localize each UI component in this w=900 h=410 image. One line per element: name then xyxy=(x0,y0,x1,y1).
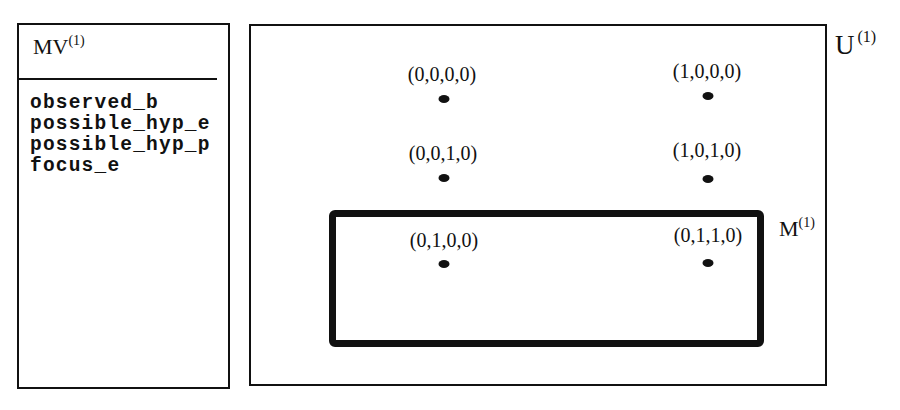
point-dot xyxy=(439,174,450,182)
mv-variable-list: observed_b possible_hyp_e possible_hyp_p… xyxy=(30,93,211,177)
point-dot xyxy=(703,175,714,183)
point-label: (0,1,1,0) xyxy=(674,224,742,246)
mv-variable-item: focus_e xyxy=(30,156,211,177)
model-label-text: M xyxy=(779,216,799,241)
point-label: (1,0,0,0) xyxy=(673,60,741,82)
mv-variable-item: observed_b xyxy=(30,93,211,114)
mv-divider xyxy=(19,78,217,80)
point-dot xyxy=(703,259,714,267)
mv-title: MV(1) xyxy=(33,35,85,62)
mv-title-superscript: (1) xyxy=(68,33,84,48)
universe-label-superscript: (1) xyxy=(858,28,877,45)
point-dot xyxy=(439,95,450,103)
point-dot xyxy=(703,92,714,100)
universe-label: U(1) xyxy=(835,30,876,64)
mv-title-text: MV xyxy=(33,34,68,59)
point-label: (1,0,1,0) xyxy=(673,139,741,161)
mv-panel: MV(1) observed_b possible_hyp_e possible… xyxy=(17,23,230,389)
model-label-superscript: (1) xyxy=(799,215,815,230)
point-label: (0,1,0,0) xyxy=(410,229,478,251)
point-label: (0,0,1,0) xyxy=(409,142,477,164)
mv-variable-item: possible_hyp_p xyxy=(30,135,211,156)
universe-label-text: U xyxy=(835,30,855,60)
point-label: (0,0,0,0) xyxy=(408,63,476,85)
model-label: M(1) xyxy=(779,216,815,245)
point-dot xyxy=(439,260,450,268)
mv-variable-item: possible_hyp_e xyxy=(30,114,211,135)
